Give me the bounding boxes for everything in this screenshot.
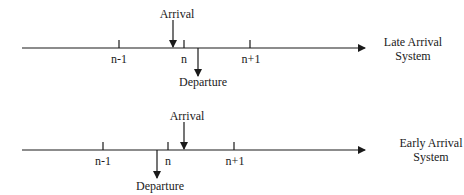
tick-label-n-plus-1: n+1: [242, 53, 261, 66]
arrival-label: Arrival: [170, 110, 205, 123]
departure-label: Departure: [136, 180, 184, 193]
early-arrival-timeline: [22, 122, 365, 178]
late-arrival-timeline: [22, 20, 365, 76]
tick-label-n-plus-1: n+1: [226, 155, 245, 168]
early-arrival-system-title: Early Arrival System: [400, 136, 463, 164]
tick-label-n: n: [165, 155, 171, 168]
tick-label-n: n: [181, 53, 187, 66]
system-title-line-1: Late Arrival: [384, 35, 442, 49]
tick-label-n-minus-1: n-1: [95, 155, 111, 168]
departure-label: Departure: [179, 76, 227, 89]
system-title-line-1: Early Arrival: [400, 136, 463, 150]
tick-label-n-minus-1: n-1: [111, 53, 127, 66]
late-arrival-system-title: Late Arrival System: [384, 35, 442, 63]
system-title-line-2: System: [400, 150, 463, 164]
arrival-label: Arrival: [160, 8, 195, 21]
system-title-line-2: System: [384, 49, 442, 63]
